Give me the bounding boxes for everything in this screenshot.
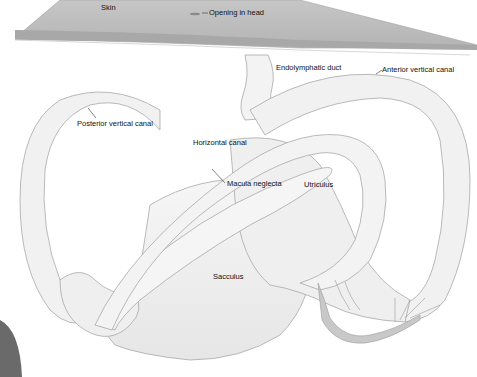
label-endolymphatic-duct: Endolymphatic duct [276,64,341,72]
label-skin: Skin [101,4,116,12]
label-opening-in-head: Opening in head [209,9,264,17]
bone-fragment [0,320,22,377]
label-sacculus: Sacculus [213,273,243,281]
label-utriculus: Utriculus [304,181,333,189]
label-posterior-vertical-canal: Posterior vertical canal [77,120,153,128]
inner-ear-diagram: Skin Opening in head Endolymphatic duct … [0,0,477,377]
labyrinth-illustration [0,0,477,377]
label-anterior-vertical-canal: Anterior vertical canal [382,66,454,74]
label-macula-neglecta: Macula neglecta [227,180,282,188]
opening-in-head-mark [190,13,200,15]
label-horizontal-canal: Horizontal canal [193,139,247,147]
